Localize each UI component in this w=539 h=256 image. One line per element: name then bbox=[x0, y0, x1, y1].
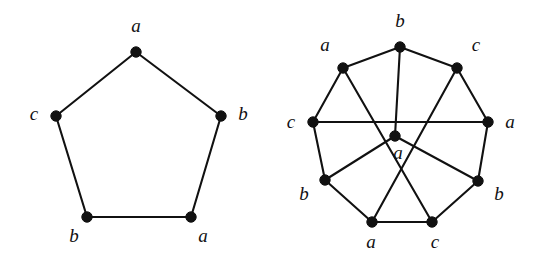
vertex-label: a bbox=[393, 142, 403, 163]
vertex-label: b bbox=[299, 183, 309, 204]
graph-edge bbox=[457, 68, 488, 122]
vertex-label: a bbox=[366, 231, 376, 252]
graph-edge bbox=[343, 47, 400, 68]
graph-edge bbox=[325, 180, 372, 222]
vertex-label: c bbox=[431, 231, 440, 252]
graph-vertex bbox=[338, 63, 348, 73]
graph-vertex bbox=[427, 217, 437, 227]
graph-edge bbox=[191, 116, 221, 217]
graph-edge bbox=[432, 181, 478, 222]
graph-vertex bbox=[483, 117, 493, 127]
graph-edge bbox=[313, 68, 343, 122]
vertex-label: c bbox=[472, 34, 481, 55]
graph-vertex bbox=[390, 131, 400, 141]
right-graph-edges bbox=[313, 47, 488, 222]
graph-edge bbox=[400, 47, 457, 68]
graph-vertex bbox=[131, 47, 141, 57]
right-graph-octagon-wheel: bcabcabcaa bbox=[270, 0, 539, 256]
graph-vertex bbox=[395, 42, 405, 52]
graph-edge bbox=[56, 52, 136, 116]
vertex-label: b bbox=[395, 10, 405, 31]
graph-vertex bbox=[308, 117, 318, 127]
graph-vertex bbox=[82, 212, 92, 222]
graph-vertex bbox=[186, 212, 196, 222]
left-graph-pentagon: ababc bbox=[0, 0, 270, 256]
graph-edge bbox=[372, 68, 457, 222]
graph-vertex bbox=[51, 111, 61, 121]
graph-vertex bbox=[216, 111, 226, 121]
graph-vertex bbox=[473, 176, 483, 186]
graph-edge bbox=[313, 122, 325, 180]
vertex-label: b bbox=[494, 183, 504, 204]
vertex-label: c bbox=[287, 111, 296, 132]
vertex-label: a bbox=[198, 225, 208, 246]
figure-canvas: ababc bcabcabcaa bbox=[0, 0, 539, 256]
graph-vertex bbox=[452, 63, 462, 73]
vertex-label: a bbox=[131, 15, 141, 36]
vertex-label: b bbox=[69, 225, 79, 246]
graph-edge bbox=[478, 122, 488, 181]
graph-edge bbox=[325, 136, 395, 180]
vertex-label: b bbox=[238, 103, 248, 124]
vertex-label: a bbox=[320, 34, 330, 55]
vertex-label: a bbox=[505, 111, 515, 132]
right-graph-vertices bbox=[308, 42, 493, 227]
graph-edge bbox=[56, 116, 87, 217]
vertex-label: c bbox=[30, 103, 39, 124]
left-graph-vertices bbox=[51, 47, 226, 222]
graph-edge bbox=[136, 52, 221, 116]
graph-vertex bbox=[320, 175, 330, 185]
graph-edge bbox=[343, 68, 432, 222]
graph-vertex bbox=[367, 217, 377, 227]
left-graph-edges bbox=[56, 52, 221, 217]
